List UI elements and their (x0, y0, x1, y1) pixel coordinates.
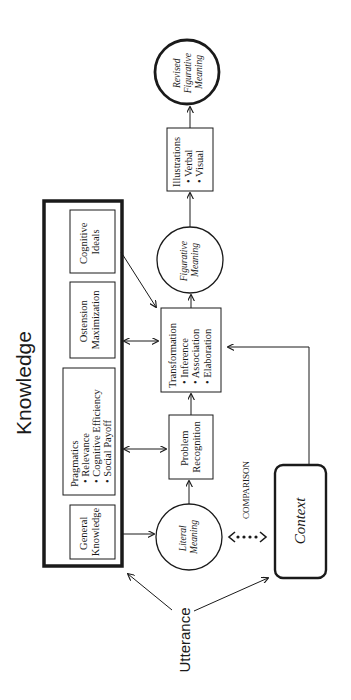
revised-meaning-line3: Meaning (194, 55, 204, 90)
transformation-title: Transformation (167, 322, 178, 388)
svg-text:Literal Meaning: Literal Meaning (178, 520, 199, 555)
illustrations-box: Illustrations • Verbal • Visual (167, 128, 213, 191)
svg-text:Illustrations • Verbal: Illustrations • Verbal • Visual (171, 134, 205, 187)
comparison-label: COMPARISON (241, 460, 251, 519)
arrow-utterance-to-context (194, 578, 268, 611)
context-box: Context (275, 465, 326, 578)
cognitive-ideals-line1: Cognitive (78, 222, 89, 264)
problem-recognition-line1: Problem (179, 431, 190, 467)
svg-text:Cognitive Ideals: Cognitive Ideals (78, 220, 101, 264)
revised-meaning-line2: Figurative (183, 53, 193, 94)
ostension-line1: Ostension (78, 300, 89, 343)
arrow-cognitive-ideals-to-transformation (121, 252, 156, 307)
cognitive-ideals-box: Cognitive Ideals (70, 210, 115, 273)
transformation-item-association: • Association (190, 328, 201, 384)
svg-text:Figurative Meaning: Figurative Meaning (179, 239, 200, 282)
svg-text:Transformation • Inferen: Transformation • Inference • Association… (167, 320, 213, 388)
transformation-item-elaboration: • Elaboration (202, 328, 213, 384)
general-knowledge-box: General Knowledge (70, 505, 115, 559)
illustrations-item-visual: • Visual (194, 150, 205, 183)
general-knowledge-line2: Knowledge (90, 507, 101, 556)
cognitive-ideals-line2: Ideals (90, 229, 101, 254)
svg-text:General Knowledge: General Knowledge (78, 507, 101, 556)
problem-recognition-line2: Recognition (191, 421, 202, 473)
arrow-context-to-transformation (228, 347, 309, 465)
ostension-maximization-box: Ostension Maximization (70, 282, 115, 358)
problem-recognition-box: Problem Recognition (169, 415, 213, 479)
ostension-line2: Maximization (90, 290, 101, 350)
figurative-meaning-line1: Figurative (179, 241, 189, 282)
svg-text:Revised Figurative: Revised Figurative Meaning (172, 51, 204, 94)
context-label: Context (292, 497, 308, 544)
revised-meaning-line1: Revised (172, 58, 182, 89)
general-knowledge-line1: General (78, 517, 89, 550)
illustrations-item-verbal: • Verbal (183, 149, 194, 183)
svg-text:Pragmatics • Relevance: Pragmatics • Relevance • Cognitive Effic… (69, 387, 113, 488)
pragmatics-item-cognitive-efficiency: • Cognitive Efficiency (91, 388, 102, 483)
knowledge-group: Knowledge Cognitive Ideals Ostension Max… (12, 201, 122, 566)
pragmatics-title: Pragmatics (69, 440, 80, 487)
transformation-item-inference: • Inference (179, 338, 190, 384)
literal-meaning-line1: Literal (178, 525, 188, 552)
transformation-box: Transformation • Inference • Association… (161, 308, 221, 392)
figurative-meaning-diagram: Knowledge Cognitive Ideals Ostension Max… (0, 0, 351, 700)
arrow-utterance-to-knowledge (128, 574, 172, 610)
literal-meaning-line2: Meaning (189, 520, 199, 555)
figurative-meaning-node: Figurative Meaning (157, 227, 223, 293)
pragmatics-item-social-payoff: • Social Payoff (102, 420, 113, 483)
svg-text:Problem Recognition: Problem Recognition (179, 421, 202, 473)
revised-figurative-meaning-node: Revised Figurative Meaning (155, 40, 219, 104)
figurative-meaning-line2: Meaning (190, 243, 200, 278)
comparison-connector (229, 532, 266, 542)
pragmatics-item-relevance: • Relevance (80, 433, 91, 483)
pragmatics-box: Pragmatics • Relevance • Cognitive Effic… (63, 368, 115, 495)
literal-meaning-node: Literal Meaning (156, 504, 222, 570)
knowledge-title: Knowledge (12, 331, 35, 435)
svg-text:Ostension Maximization: Ostension Maximization (78, 290, 101, 350)
illustrations-title: Illustrations (171, 137, 182, 187)
utterance-label: Utterance (176, 607, 193, 672)
